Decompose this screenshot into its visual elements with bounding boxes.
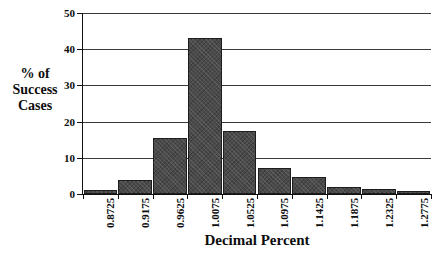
bar <box>118 180 152 194</box>
x-tick-label: 1.0075 <box>210 198 221 228</box>
x-tick-mark <box>118 194 119 199</box>
y-tick-label: 10 <box>47 153 75 164</box>
x-tick-mark <box>396 194 397 199</box>
bar <box>258 168 292 194</box>
x-tick-label: 1.2775 <box>419 198 430 228</box>
gridline-50 <box>83 13 431 14</box>
x-tick-mark <box>83 194 84 199</box>
bar <box>327 187 361 194</box>
y-tick-label: 40 <box>47 44 75 55</box>
x-tick-label: 1.1875 <box>349 198 360 228</box>
gridline-30 <box>83 85 431 86</box>
bar <box>397 191 431 194</box>
gridline-40 <box>83 49 431 50</box>
x-axis-title: Decimal Percent <box>83 232 431 249</box>
y-tick-label: 0 <box>47 189 75 200</box>
y-tick-mark-50 <box>77 13 83 14</box>
x-tick-mark <box>292 194 293 199</box>
y-tick-mark-0 <box>77 194 83 195</box>
y-tick-mark-30 <box>77 85 83 86</box>
x-tick-mark <box>187 194 188 199</box>
x-tick-mark <box>257 194 258 199</box>
x-tick-label: 1.0525 <box>245 198 256 228</box>
y-tick-label: 20 <box>47 117 75 128</box>
x-tick-label: 0.9625 <box>175 198 186 228</box>
histogram-chart: % of Success Cases 01020304050 0.87250.9… <box>0 0 438 254</box>
gridline-10 <box>83 158 431 159</box>
bar <box>292 177 326 194</box>
gridline-20 <box>83 122 431 123</box>
bar <box>153 138 187 194</box>
x-tick-label: 1.1425 <box>314 198 325 228</box>
bar <box>84 190 118 194</box>
plot-area <box>83 13 431 194</box>
y-tick-label: 50 <box>47 8 75 19</box>
x-tick-label: 1.2325 <box>384 198 395 228</box>
y-tick-mark-10 <box>77 158 83 159</box>
y-tick-mark-20 <box>77 122 83 123</box>
y-tick-mark-40 <box>77 49 83 50</box>
x-tick-mark <box>153 194 154 199</box>
x-tick-mark <box>431 194 432 199</box>
y-tick-label: 30 <box>47 80 75 91</box>
x-tick-mark <box>327 194 328 199</box>
x-tick-mark <box>361 194 362 199</box>
bar <box>362 189 396 194</box>
bar <box>223 131 257 194</box>
x-tick-label: 0.9175 <box>140 198 151 228</box>
x-tick-label: 0.8725 <box>105 198 116 228</box>
x-tick-mark <box>222 194 223 199</box>
bar <box>188 38 222 194</box>
x-tick-label: 1.0975 <box>279 198 290 228</box>
y-axis-tick-labels: 01020304050 <box>45 0 75 254</box>
